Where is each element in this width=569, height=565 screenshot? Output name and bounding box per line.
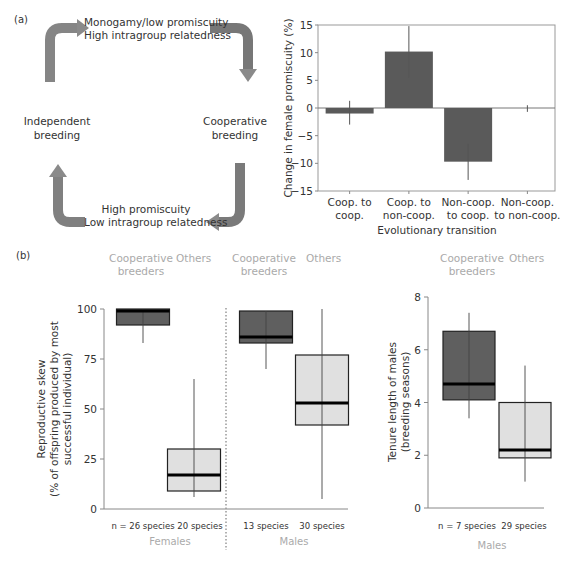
- boxes: [117, 309, 349, 499]
- n-females-coop: n = 26 species: [111, 521, 175, 531]
- x-tick-label: Coop. to: [328, 196, 372, 208]
- bars: [326, 26, 528, 194]
- header-coop-females: Cooperative breeders: [108, 252, 174, 278]
- arrow-left-up-icon: [49, 164, 85, 222]
- n-males-coop: 13 species: [243, 521, 289, 531]
- box-1: [499, 366, 551, 482]
- females-label: Females: [149, 536, 190, 547]
- x-tick-label: Non-coop.: [441, 196, 494, 208]
- bottom-state-line1: High promiscuity: [84, 203, 208, 216]
- top-state-label: Monogamy/low promiscuity High intragroup…: [84, 16, 214, 42]
- y-tick-label: 0: [414, 502, 421, 514]
- x-tick-label: Non-coop.: [501, 196, 554, 208]
- y-tick-label: 5: [306, 74, 313, 86]
- bottom-state-label: High promiscuity Low intragroup relatedn…: [84, 203, 208, 229]
- top-state-line1: Monogamy/low promiscuity: [84, 16, 214, 29]
- box-2: [240, 311, 293, 369]
- y-tick-label: 10: [300, 47, 313, 59]
- header-others-tenure: Others: [509, 252, 544, 264]
- x-axis-labels: Coop. tocoop.Coop. tonon-coop.Non-coop.t…: [328, 196, 561, 221]
- box-1: [168, 379, 221, 497]
- y-tick-label: 0: [90, 503, 97, 515]
- promiscuity-bar-chart: 151050−5−10−15 Coop. tocoop.Coop. tonon-…: [280, 0, 569, 240]
- top-state-line2: High intragroup relatedness: [84, 29, 214, 42]
- y-tick-label: 100: [77, 303, 97, 315]
- x-tick-label: non-coop.: [383, 209, 435, 221]
- cooperative-breeding-label: Cooperative breeding: [200, 114, 270, 142]
- left-state-line1: Independent: [22, 114, 92, 128]
- y-axis-title-line1: Reproductive skew: [35, 359, 47, 458]
- y-tick-label: 0: [306, 102, 313, 114]
- header-line2: breeders: [108, 265, 174, 278]
- y-tick-label: −10: [291, 157, 313, 169]
- y-axis-title-line2: (% of offspring produced by most: [48, 321, 60, 497]
- y-axis-title-line2: (breeding seasons): [399, 352, 411, 453]
- y-tick-label: 8: [414, 291, 421, 303]
- boxes: [443, 313, 551, 482]
- y-tick-label: 6: [414, 344, 421, 356]
- y-axis-title-line3: successful individual): [61, 353, 73, 466]
- y-tick-label: 25: [84, 453, 97, 465]
- box-0: [443, 313, 495, 419]
- y-tick-label: 75: [84, 353, 97, 365]
- y-tick-label: −5: [298, 130, 313, 142]
- y-axis-ticks: 86420: [414, 291, 428, 514]
- y-axis-ticks: 1007550250: [77, 303, 104, 515]
- independent-breeding-label: Independent breeding: [22, 114, 92, 142]
- n-females-others: 20 species: [177, 521, 223, 531]
- left-state-line2: breeding: [22, 128, 92, 142]
- males-label-skew: Males: [280, 536, 309, 547]
- males-label-tenure: Males: [478, 540, 507, 551]
- reproductive-skew-boxplot: 1007550250 Reproductive skew (% of offsp…: [0, 280, 380, 565]
- header-line2: breeders: [439, 265, 505, 278]
- box-0: [117, 309, 170, 343]
- right-state-line2: breeding: [200, 128, 270, 142]
- x-tick-label: to non-coop.: [494, 209, 560, 221]
- header-coop-males: Cooperative breeders: [231, 252, 297, 278]
- n-males-others: 30 species: [299, 521, 345, 531]
- header-others-females: Others: [176, 252, 211, 264]
- box-3: [296, 309, 349, 499]
- header-line2: breeders: [231, 265, 297, 278]
- header-line1: Cooperative: [439, 252, 505, 265]
- y-tick-label: 50: [84, 403, 97, 415]
- x-axis-title: Evolutionary transition: [377, 224, 496, 236]
- panel-b-label: (b): [16, 250, 30, 261]
- y-axis-ticks: 151050−5−10−15: [291, 19, 318, 197]
- n-tenure-others: 29 species: [501, 521, 547, 531]
- y-axis-title-line1: Tenure length of males: [386, 342, 398, 463]
- right-state-line1: Cooperative: [200, 114, 270, 128]
- tenure-boxplot: 86420 Tenure length of males (breeding s…: [380, 280, 569, 565]
- n-tenure-coop: n = 7 species: [438, 521, 496, 531]
- y-axis-title: Change in female promiscuity (%): [282, 19, 294, 198]
- header-line1: Cooperative: [231, 252, 297, 265]
- y-tick-label: 2: [414, 449, 421, 461]
- header-line1: Cooperative: [108, 252, 174, 265]
- y-tick-label: 15: [300, 19, 313, 31]
- x-tick-label: Coop. to: [387, 196, 431, 208]
- header-coop-tenure: Cooperative breeders: [439, 252, 505, 278]
- bottom-state-line2: Low intragroup relatedness: [84, 216, 208, 229]
- x-tick-label: to coop.: [447, 209, 490, 221]
- x-tick-label: coop.: [335, 209, 364, 221]
- y-tick-label: 4: [414, 397, 421, 409]
- y-tick-label: −15: [291, 185, 313, 197]
- header-others-males: Others: [306, 252, 341, 264]
